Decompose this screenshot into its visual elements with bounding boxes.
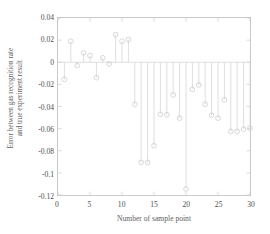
y-tick-label: -0.1 [28, 169, 54, 178]
x-axis-label: Number of sample point [57, 214, 251, 223]
y-tick-label: -0.04 [28, 102, 54, 111]
x-tick-label: 30 [247, 200, 255, 209]
x-tick-label: 0 [55, 200, 59, 209]
stem-plot-figure: Error between gas recognition rate and t… [0, 0, 270, 234]
y-tick-label: 0.04 [28, 13, 54, 22]
plot-area [57, 17, 251, 196]
x-tick-label: 25 [215, 200, 223, 209]
y-tick-label: -0.06 [28, 124, 54, 133]
y-tick-label: 0.02 [28, 35, 54, 44]
y-axis-label: Error between gas recognition rate and t… [6, 48, 24, 149]
x-tick-label: 5 [87, 200, 91, 209]
x-tick-label: 15 [150, 200, 158, 209]
plot-canvas [58, 18, 250, 195]
y-axis-tick-labels: 0.040.020-0.02-0.04-0.06-0.08-0.1-0.12 [24, 0, 54, 234]
y-axis-label-line2: and true experiment result [15, 48, 24, 149]
y-tick-label: -0.02 [28, 80, 54, 89]
y-tick-label: -0.08 [28, 147, 54, 156]
y-tick-label: 0 [28, 57, 54, 66]
x-tick-label: 20 [183, 200, 191, 209]
x-axis-tick-labels: 051015202530 [0, 200, 270, 214]
y-axis-label-line1: Error between gas recognition rate [6, 48, 15, 149]
x-tick-label: 10 [118, 200, 126, 209]
